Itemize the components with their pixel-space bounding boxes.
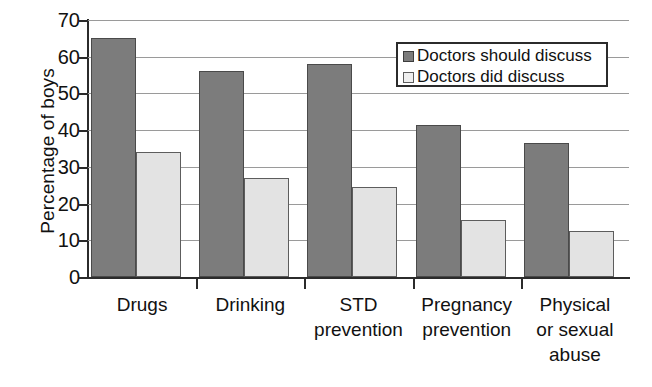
bar-should-discuss	[91, 38, 136, 277]
y-axis-tick-label: 10	[34, 230, 80, 250]
x-axis-label-line: prevention	[413, 317, 521, 342]
x-axis-label-line: Physical	[521, 292, 629, 317]
x-axis-label-line: abuse	[521, 342, 629, 367]
x-axis-separator	[521, 277, 523, 289]
bar-did-discuss	[244, 178, 289, 277]
y-axis-tick-mark	[79, 57, 88, 59]
bar-should-discuss	[524, 143, 569, 277]
y-axis-tick-mark	[79, 204, 88, 206]
legend-item[interactable]: Doctors did discuss	[403, 67, 606, 87]
bar-group	[196, 20, 304, 277]
bar-should-discuss	[307, 64, 352, 277]
x-axis-label: Drinking	[196, 292, 304, 317]
x-axis-label-line: STD	[304, 292, 412, 317]
legend-label: Doctors did discuss	[417, 68, 564, 86]
y-axis-tick-mark	[79, 93, 88, 95]
y-axis-tick-label: 60	[34, 47, 80, 67]
y-axis-tick-label: 30	[34, 157, 80, 177]
legend-item[interactable]: Doctors should discuss	[403, 46, 606, 66]
bar-did-discuss	[461, 220, 506, 277]
y-axis-tick-label: 70	[34, 10, 80, 30]
x-axis-label: Pregnancyprevention	[413, 292, 521, 342]
x-axis-separator	[304, 277, 306, 289]
bar-group	[88, 20, 196, 277]
bar-chart: Percentage of boys 010203040506070 Drugs…	[0, 0, 652, 387]
y-axis-tick-labels: 010203040506070	[34, 0, 80, 387]
y-axis-tick-label: 50	[34, 83, 80, 103]
bar-did-discuss	[352, 187, 397, 277]
x-axis-label: Drugs	[88, 292, 196, 317]
x-axis-label: STDprevention	[304, 292, 412, 342]
y-axis-tick-mark	[79, 240, 88, 242]
y-axis-tick-mark	[79, 130, 88, 132]
x-axis-label-line: Drinking	[196, 292, 304, 317]
y-axis-tick-mark	[79, 167, 88, 169]
x-axis-label-line: Drugs	[88, 292, 196, 317]
legend-swatch-icon	[403, 72, 414, 83]
x-axis-category-labels: DrugsDrinkingSTDpreventionPregnancypreve…	[88, 292, 629, 387]
legend-label: Doctors should discuss	[417, 47, 592, 65]
legend-swatch-icon	[403, 51, 414, 62]
bar-should-discuss	[199, 71, 244, 277]
y-axis-tick-label: 0	[34, 267, 80, 287]
bar-did-discuss	[136, 152, 181, 277]
x-axis-label-line: or sexual	[521, 317, 629, 342]
y-axis-tick-mark	[79, 20, 88, 22]
chart-legend: Doctors should discussDoctors did discus…	[396, 42, 608, 87]
x-axis-label: Physicalor sexualabuse	[521, 292, 629, 367]
bar-did-discuss	[569, 231, 614, 277]
y-axis-tick-label: 40	[34, 120, 80, 140]
bar-should-discuss	[416, 125, 461, 277]
x-axis-separator	[196, 277, 198, 289]
x-axis-label-line: Pregnancy	[413, 292, 521, 317]
x-axis-label-line: prevention	[304, 317, 412, 342]
y-axis-tick-label: 20	[34, 194, 80, 214]
x-axis-line	[87, 277, 630, 279]
y-axis-tick-mark	[79, 277, 88, 279]
x-axis-separator	[413, 277, 415, 289]
